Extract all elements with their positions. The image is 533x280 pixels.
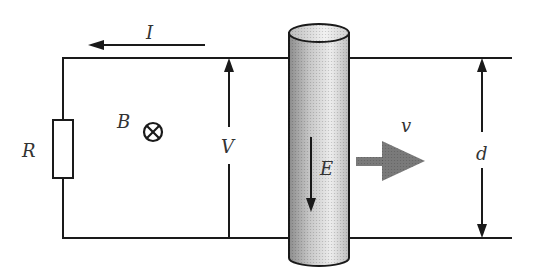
separation-label: d bbox=[476, 145, 488, 163]
circuit-drawing bbox=[0, 0, 533, 280]
field-into-page-icon bbox=[144, 123, 162, 141]
conducting-rod bbox=[289, 24, 349, 266]
velocity-arrow bbox=[356, 141, 425, 181]
rail-rod-diagram: I B R V E v d bbox=[0, 0, 533, 280]
current-label: I bbox=[146, 24, 153, 42]
voltage-label: V bbox=[221, 138, 234, 156]
field-label: B bbox=[117, 113, 130, 131]
resistor-label: R bbox=[22, 142, 36, 160]
resistor-symbol bbox=[53, 120, 73, 178]
circuit-wires bbox=[63, 58, 512, 238]
velocity-label: v bbox=[401, 117, 411, 135]
electric-field-label: E bbox=[320, 160, 333, 178]
